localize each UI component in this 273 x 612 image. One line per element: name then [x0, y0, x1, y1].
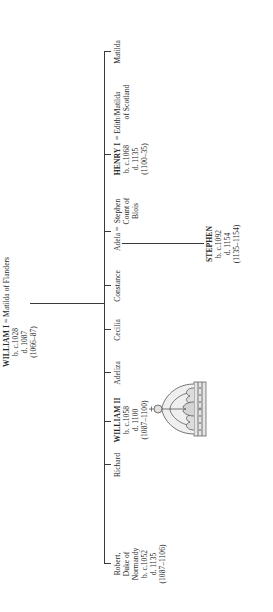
- tick-robert: [104, 563, 111, 564]
- node-edith-matilda-title: of Scotland: [122, 85, 131, 120]
- marriage-symbol: =: [2, 319, 11, 323]
- family-tree-diagram: WILLIAM I = Matilda of Flanders b. c.102…: [0, 0, 273, 612]
- node-matilda: Matilda: [113, 40, 122, 64]
- name-matilda: Matilda: [113, 40, 122, 64]
- title-line: Duke of: [122, 545, 131, 584]
- node-henry-i: HENRY I b. c.1068 d. 1135 (1100–35): [113, 143, 149, 175]
- born-date: b. c.1028: [11, 326, 20, 358]
- node-adela: Adela =: [113, 227, 122, 251]
- node-william-i: WILLIAM I = Matilda of Flanders: [2, 257, 11, 367]
- name-adeliza: Adeliza: [113, 361, 122, 385]
- node-william-i-dates: b. c.1028 d. 1087 (1066–87): [11, 326, 38, 358]
- tick-richard: [104, 464, 111, 465]
- tick-constance: [104, 285, 111, 286]
- born-date: b. c.1092: [214, 225, 223, 264]
- died-date: d. 1087: [20, 326, 29, 358]
- node-robert: Robert, Duke of Normandy b. c.1052 d. 11…: [113, 545, 167, 584]
- stephen-descent-line: [122, 243, 204, 244]
- spouse-name: Stephen: [113, 198, 122, 225]
- tick-henry-i: [104, 154, 111, 155]
- crown-icon: [148, 378, 212, 440]
- name-adela: Adela: [113, 233, 122, 251]
- name-constance: Constance: [113, 270, 122, 302]
- spouse-name: Edith/Matilda: [113, 92, 122, 134]
- died-date: d. 1154: [223, 225, 232, 264]
- reign-dates: (1087–1106): [158, 545, 167, 584]
- born-date: b. c.1068: [122, 143, 131, 175]
- name-henry-i: HENRY I: [113, 143, 122, 175]
- tick-adeliza: [104, 372, 111, 373]
- tick-william-ii: [104, 421, 111, 422]
- node-adeliza: Adeliza: [113, 361, 122, 385]
- born-date: b. c.1058: [122, 397, 131, 442]
- name-william-i: WILLIAM I: [2, 325, 11, 367]
- spouse-title: Blois: [131, 198, 140, 225]
- reign-dates: (1135–1154): [232, 225, 241, 264]
- name-robert: Robert,: [113, 545, 122, 584]
- marriage-symbol: =: [113, 227, 122, 231]
- died-date: d. 1135: [149, 545, 158, 584]
- node-william-ii: WILLIAM II b. c.1058 d. 1100 (1087–1100): [113, 397, 149, 442]
- tick-cecilia: [104, 329, 111, 330]
- name-william-ii: WILLIAM II: [113, 397, 122, 442]
- node-richard: Richard: [113, 453, 122, 477]
- reign-dates: (1100–35): [140, 143, 149, 175]
- died-date: d. 1100: [131, 397, 140, 442]
- died-date: d. 1135: [131, 143, 140, 175]
- node-cecilia: Cecilia: [113, 319, 122, 341]
- spouse-title: Count of: [122, 198, 131, 225]
- tick-matilda: [104, 51, 111, 52]
- spouse-matilda-of-flanders: Matilda of Flanders: [2, 257, 11, 317]
- node-stephen-king: STEPHEN b. c.1092 d. 1154 (1135–1154): [205, 225, 241, 264]
- root-connector-line: [30, 303, 105, 304]
- name-stephen: STEPHEN: [205, 225, 214, 264]
- node-stephen-count-of-blois: Stephen Count of Blois: [113, 198, 140, 225]
- tick-adela: [104, 231, 111, 232]
- name-cecilia: Cecilia: [113, 319, 122, 341]
- reign-dates: (1066–87): [29, 326, 38, 358]
- node-edith-matilda: = Edith/Matilda: [113, 92, 122, 140]
- marriage-symbol: =: [113, 136, 122, 140]
- name-richard: Richard: [113, 453, 122, 477]
- born-date: b. c.1052: [140, 545, 149, 584]
- title-line: Normandy: [131, 545, 140, 584]
- siblings-bar: [104, 51, 105, 564]
- node-constance: Constance: [113, 270, 122, 302]
- spouse-title: of Scotland: [122, 85, 131, 120]
